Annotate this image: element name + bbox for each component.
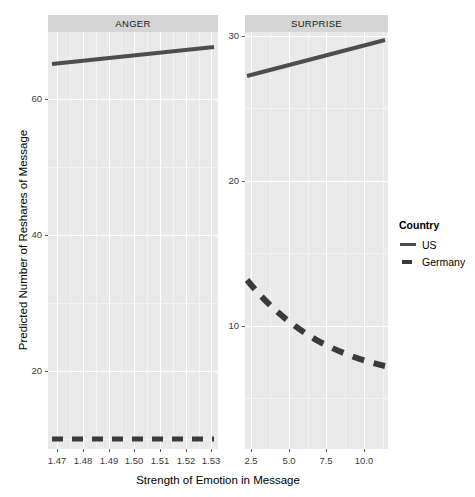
series-plot-surprise xyxy=(245,32,388,449)
tick-mark-x-left xyxy=(160,449,161,452)
tick-mark-y-left xyxy=(45,371,48,372)
tick-label-x-right-3: 7.5 xyxy=(312,455,340,466)
tick-label-x-left-3: 1.49 xyxy=(95,455,123,466)
legend-item-us[interactable]: US xyxy=(399,236,465,253)
tick-mark-x-right xyxy=(364,449,365,452)
tick-label-y-right-30: 30 xyxy=(215,30,239,41)
panel-anger xyxy=(48,32,218,449)
x-axis-title: Strength of Emotion in Message xyxy=(48,474,388,486)
tick-label-x-left-2: 1.48 xyxy=(69,455,97,466)
legend-label-us: US xyxy=(422,239,437,251)
tick-mark-x-left xyxy=(109,449,110,452)
legend-item-germany[interactable]: Germany xyxy=(399,253,465,270)
tick-mark-x-left xyxy=(57,449,58,452)
series-line-germany xyxy=(247,280,385,366)
tick-label-x-right-2: 5.0 xyxy=(275,455,303,466)
tick-mark-x-left xyxy=(83,449,84,452)
tick-mark-x-right xyxy=(251,449,252,452)
series-plot-anger xyxy=(48,32,218,449)
facet-strip-surprise: SURPRISE xyxy=(245,15,388,32)
tick-mark-y-left xyxy=(45,99,48,100)
tick-label-x-right-1: 2.5 xyxy=(237,455,265,466)
tick-mark-y-right xyxy=(242,36,245,37)
tick-label-x-left-7: 1.53 xyxy=(197,455,225,466)
legend-key-solid-line-icon xyxy=(399,236,417,253)
legend: Country US Germany xyxy=(399,219,465,270)
tick-label-y-left-20: 20 xyxy=(18,365,42,376)
legend-label-germany: Germany xyxy=(422,256,465,268)
legend-key-dashed-line-icon xyxy=(399,253,417,270)
series-line-us xyxy=(247,40,385,76)
tick-label-x-left-1: 1.47 xyxy=(43,455,71,466)
series-line-us xyxy=(52,47,214,64)
tick-label-y-right-20: 20 xyxy=(215,175,239,186)
tick-label-y-right-10: 10 xyxy=(215,320,239,331)
tick-label-x-left-6: 1.52 xyxy=(172,455,200,466)
tick-mark-x-right xyxy=(326,449,327,452)
tick-mark-y-right xyxy=(242,326,245,327)
tick-mark-x-left xyxy=(134,449,135,452)
panel-surprise xyxy=(245,32,388,449)
legend-title: Country xyxy=(399,219,465,231)
tick-mark-y-right xyxy=(242,181,245,182)
tick-label-y-left-60: 60 xyxy=(18,93,42,104)
tick-label-y-left-40: 40 xyxy=(18,229,42,240)
facet-strip-anger: ANGER xyxy=(48,15,218,32)
tick-mark-y-left xyxy=(45,235,48,236)
chart-container: Predicted Number of Reshares of Message … xyxy=(0,0,475,497)
tick-label-x-left-5: 1.51 xyxy=(146,455,174,466)
tick-label-x-right-4: 10.0 xyxy=(350,455,378,466)
tick-label-x-left-4: 1.50 xyxy=(120,455,148,466)
tick-mark-x-right xyxy=(289,449,290,452)
tick-mark-x-left xyxy=(211,449,212,452)
tick-mark-x-left xyxy=(186,449,187,452)
